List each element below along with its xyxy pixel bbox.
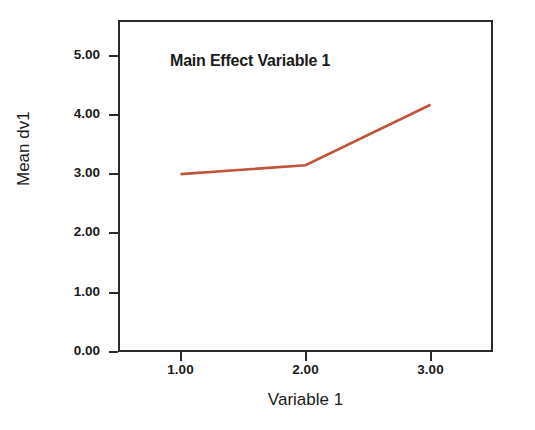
- y-axis-tick-label: 1.00: [44, 284, 100, 299]
- y-axis-tick-label: 2.00: [44, 224, 100, 239]
- x-axis-tick-label: 2.00: [271, 362, 341, 377]
- y-axis-tick-label: 0.00: [44, 343, 100, 358]
- y-axis-title: Mean dv1: [14, 111, 34, 186]
- x-axis-tick-label: 1.00: [146, 362, 216, 377]
- chart-figure: Main Effect Variable 1 0.001.002.003.004…: [0, 0, 535, 430]
- y-axis-tick-mark: [109, 232, 118, 234]
- y-axis-tick-mark: [109, 114, 118, 116]
- x-axis-tick-mark: [430, 352, 432, 361]
- y-axis-tick-label: 5.00: [44, 47, 100, 62]
- x-axis-title: Variable 1: [118, 390, 493, 410]
- x-axis-tick-mark: [305, 352, 307, 361]
- y-axis-tick-label: 3.00: [44, 165, 100, 180]
- x-axis-tick-mark: [180, 352, 182, 361]
- y-axis-tick-mark: [109, 351, 118, 353]
- data-line-mean-dv1: [181, 105, 431, 174]
- y-axis-tick-mark: [109, 55, 118, 57]
- x-axis-tick-labels: 1.002.003.00: [0, 362, 535, 384]
- y-axis-tick-label: 4.00: [44, 106, 100, 121]
- chart-title: Main Effect Variable 1: [170, 52, 330, 70]
- y-axis-tick-mark: [109, 292, 118, 294]
- x-axis-tick-label: 3.00: [396, 362, 466, 377]
- y-axis-tick-mark: [109, 173, 118, 175]
